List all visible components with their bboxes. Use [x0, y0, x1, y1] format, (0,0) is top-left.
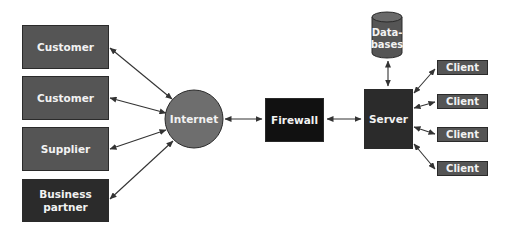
edge-server-client3: [414, 127, 435, 134]
supplier-label: Supplier: [41, 143, 91, 156]
edge-server-client2: [414, 102, 435, 108]
edge-server-client4: [414, 144, 435, 169]
client-label-4: Client: [446, 163, 479, 175]
supplier-node: Supplier: [22, 127, 109, 171]
customer-label-2: Customer: [37, 92, 94, 105]
customer-node-1: Customer: [22, 25, 109, 69]
edge-customer1-internet: [110, 48, 172, 99]
client-label-1: Client: [446, 62, 479, 74]
client-node-1: Client: [437, 60, 488, 75]
edge-server-client1: [414, 69, 435, 93]
firewall-node: Firewall: [265, 98, 324, 142]
edge-partner-internet: [110, 141, 173, 199]
client-node-3: Client: [437, 127, 488, 142]
customer-label-1: Customer: [37, 41, 94, 54]
server-label: Server: [369, 113, 408, 126]
business-partner-label-line1: Business: [39, 188, 91, 201]
databases-label-line1: Data-: [372, 27, 403, 39]
business-partner-label-line2: partner: [43, 201, 88, 214]
internet-label-holder: Internet: [165, 90, 223, 148]
server-node: Server: [364, 89, 413, 149]
databases-label-holder: Data- bases: [372, 22, 402, 56]
edge-supplier-internet: [110, 130, 166, 149]
customer-node-2: Customer: [22, 76, 109, 120]
databases-label-line2: bases: [371, 39, 404, 51]
internet-label: Internet: [170, 113, 218, 126]
client-node-2: Client: [437, 94, 488, 109]
client-label-2: Client: [446, 96, 479, 108]
edge-customer2-internet: [110, 98, 166, 113]
business-partner-node: Business partner: [22, 179, 109, 222]
client-node-4: Client: [437, 161, 488, 176]
firewall-label: Firewall: [271, 114, 318, 127]
client-label-3: Client: [446, 129, 479, 141]
